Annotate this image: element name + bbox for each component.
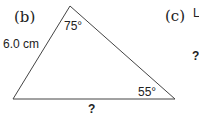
part-c-unknown-label: ? (192, 50, 199, 62)
part-c-partial-text: L (193, 7, 199, 19)
right-angle-label: 55° (138, 86, 156, 98)
part-b-label: (b) (14, 10, 35, 25)
top-angle-label: 75° (64, 20, 82, 32)
base-unknown-label: ? (88, 103, 95, 115)
side-length-label: 6.0 cm (3, 38, 39, 50)
part-c-label: (c) (165, 9, 185, 24)
